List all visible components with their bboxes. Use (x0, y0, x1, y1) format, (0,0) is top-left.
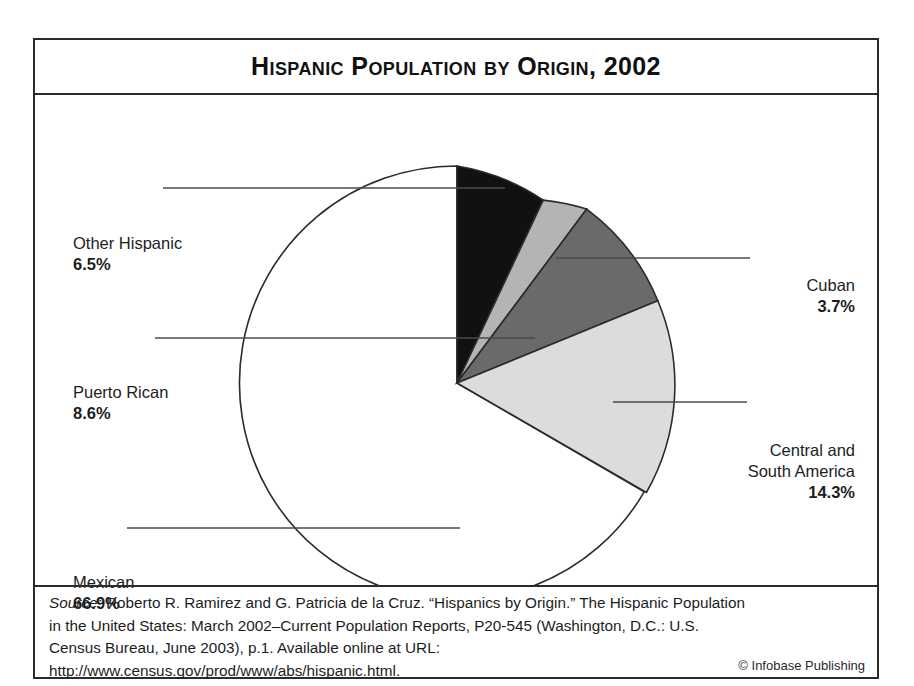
copyright-notice: © Infobase Publishing (738, 658, 865, 673)
title-band: Hispanic Population by Origin, 2002 (35, 40, 877, 95)
slice-label-central-south-america-percent: 14.3% (748, 482, 855, 503)
pie-chart-plot-area: Other Hispanic 6.5% Puerto Rican 8.6% Me… (35, 95, 877, 585)
source-label: Source: (49, 594, 102, 611)
slice-label-central-south-america-name-line1: Central and (748, 440, 855, 461)
source-text: Roberto R. Ramirez and G. Patricia de la… (49, 594, 745, 679)
source-divider (35, 585, 877, 587)
slice-label-central-south-america: Central and South America 14.3% (748, 440, 855, 503)
slice-label-cuban: Cuban 3.7% (806, 275, 855, 317)
pie-chart (35, 95, 881, 585)
slice-label-puerto-rican-percent: 8.6% (73, 403, 168, 424)
slice-label-puerto-rican: Puerto Rican 8.6% (73, 382, 168, 424)
slice-label-other-hispanic-percent: 6.5% (73, 254, 182, 275)
slice-label-mexican-name: Mexican (73, 572, 134, 593)
slice-label-other-hispanic: Other Hispanic 6.5% (73, 233, 182, 275)
page-title: Hispanic Population by Origin, 2002 (251, 52, 661, 81)
slice-label-cuban-percent: 3.7% (806, 296, 855, 317)
slice-label-cuban-name: Cuban (806, 275, 855, 296)
slice-label-other-hispanic-name: Other Hispanic (73, 233, 182, 254)
slice-label-central-south-america-name-line2: South America (748, 461, 855, 482)
figure-frame: Hispanic Population by Origin, 2002 Othe… (33, 38, 879, 679)
source-note: Source: Roberto R. Ramirez and G. Patric… (49, 592, 749, 682)
slice-label-puerto-rican-name: Puerto Rican (73, 382, 168, 403)
